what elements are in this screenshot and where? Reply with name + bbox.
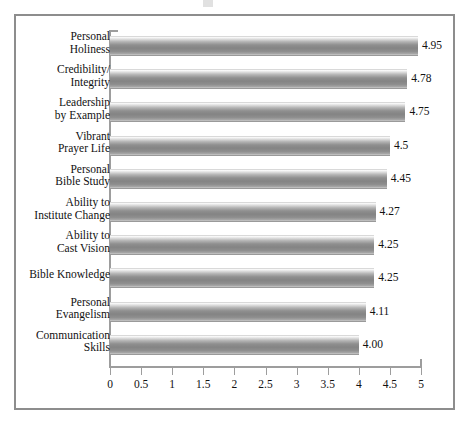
chart-figure-frame: Personal Holiness4.95Credibility/ Integr… [14,14,455,410]
category-label: Communication Skills [0,329,110,354]
category-label: Personal Evangelism [0,296,110,321]
bar-row: Credibility/ Integrity4.78 [16,63,457,96]
category-label: Bible Knowledge [0,268,110,281]
bar-value-label: 4.75 [409,105,429,118]
x-axis-tick [234,368,235,375]
x-axis-tick [110,368,111,375]
x-axis-tick [359,368,360,375]
category-label: Leadership by Example [0,96,110,121]
x-axis-tick [328,368,329,375]
x-axis-tick [141,368,142,375]
bar [110,235,374,255]
bar-value-label: 4.5 [394,139,408,152]
category-label: Vibrant Prayer Life [0,130,110,155]
category-label: Personal Bible Study [0,163,110,188]
category-label: Ability to Institute Change [0,196,110,221]
bar [110,202,376,222]
bar [110,335,359,355]
x-axis-tick [297,368,298,375]
bar-row: Communication Skills4.00 [16,329,457,362]
x-axis-tick [203,368,204,375]
bar [110,69,407,89]
bar-value-label: 4.00 [363,338,383,351]
bar-value-label: 4.27 [380,205,400,218]
bar [110,36,418,56]
page-artifact-glyph [203,0,213,7]
x-axis-tick [390,368,391,375]
category-label: Credibility/ Integrity [0,63,110,88]
bar-value-label: 4.95 [422,39,442,52]
x-axis-tick [421,368,422,375]
bar-value-label: 4.45 [391,172,411,185]
bar-value-label: 4.25 [378,238,398,251]
bar [110,136,390,156]
x-axis-tick-label: 5 [401,377,441,391]
bar [110,102,405,122]
x-axis-tick [172,368,173,375]
bar [110,169,387,189]
bar-value-label: 4.25 [378,271,398,284]
bar-row: Vibrant Prayer Life4.5 [16,130,457,163]
bar-row: Leadership by Example4.75 [16,96,457,129]
bar [110,302,366,322]
bar-value-label: 4.11 [370,305,390,318]
bar-row: Personal Evangelism4.11 [16,296,457,329]
bar-value-label: 4.78 [411,72,431,85]
bar-row: Ability to Cast Vision4.25 [16,229,457,262]
bar [110,268,374,288]
x-axis-tick [266,368,267,375]
bar-row: Personal Holiness4.95 [16,30,457,63]
chart-plot-area: Personal Holiness4.95Credibility/ Integr… [16,16,457,412]
bar-row: Bible Knowledge4.25 [16,262,457,295]
bar-row: Ability to Institute Change4.27 [16,196,457,229]
bar-row: Personal Bible Study4.45 [16,163,457,196]
category-label: Ability to Cast Vision [0,229,110,254]
category-label: Personal Holiness [0,30,110,55]
